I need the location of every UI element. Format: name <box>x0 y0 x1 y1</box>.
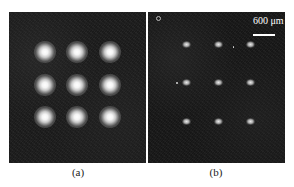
image-panel-a <box>9 12 146 163</box>
light-spot <box>182 79 191 86</box>
artifact-speck <box>176 82 178 84</box>
scale-bar-label: 600 μm <box>253 15 284 26</box>
light-spot <box>182 118 191 125</box>
light-spot <box>182 41 191 48</box>
light-spot <box>66 74 88 96</box>
caption-a: (a) <box>63 166 93 178</box>
light-spot <box>246 79 255 86</box>
light-spot <box>214 79 223 86</box>
image-panel-b: 600 μm <box>148 12 285 163</box>
artifact-speck <box>156 16 161 21</box>
light-spot <box>34 41 56 63</box>
light-spot <box>66 106 88 128</box>
light-spot <box>99 41 121 63</box>
artifact-speck <box>233 46 234 48</box>
light-spot <box>34 74 56 96</box>
light-spot <box>34 106 56 128</box>
light-spot <box>214 41 223 48</box>
light-spot <box>214 118 223 125</box>
light-spot <box>66 41 88 63</box>
caption-b: (b) <box>201 166 231 178</box>
scale-bar <box>253 34 275 36</box>
light-spot <box>246 41 255 48</box>
light-spot <box>99 74 121 96</box>
light-spot <box>246 118 255 125</box>
light-spot <box>99 106 121 128</box>
